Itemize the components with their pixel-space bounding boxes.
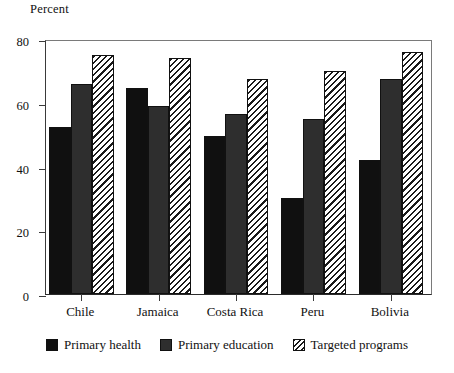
hatched-swatch bbox=[293, 339, 305, 351]
bar-group bbox=[281, 41, 346, 294]
legend-item-label: Primary health bbox=[64, 337, 141, 353]
solid-black-swatch bbox=[46, 339, 58, 351]
solid-gray-swatch bbox=[160, 339, 172, 351]
x-axis-category-label: Peru bbox=[301, 304, 325, 320]
bar bbox=[303, 119, 325, 294]
bar bbox=[324, 71, 346, 294]
bar bbox=[359, 160, 381, 294]
bar-group bbox=[126, 41, 191, 294]
bar-chart-figure: Percent 020406080 ChileJamaicaCosta Rica… bbox=[0, 0, 454, 373]
x-axis-tick bbox=[313, 294, 314, 301]
y-axis-tick-label: 40 bbox=[17, 162, 30, 177]
bar bbox=[148, 106, 170, 294]
plot-area: 020406080 bbox=[45, 40, 432, 295]
y-axis-tick: 80 bbox=[39, 41, 46, 42]
y-axis-tick: 60 bbox=[39, 105, 46, 106]
bar-group bbox=[359, 41, 424, 294]
x-axis-tick bbox=[159, 294, 160, 301]
bar bbox=[126, 88, 148, 294]
x-axis-category-label: Bolivia bbox=[371, 304, 409, 320]
bar-group bbox=[49, 41, 114, 294]
bar-group bbox=[204, 41, 269, 294]
x-axis-tick bbox=[236, 294, 237, 301]
legend-item[interactable]: Primary health bbox=[46, 337, 141, 353]
y-axis-tick: 0 bbox=[39, 296, 46, 297]
bar bbox=[92, 55, 114, 294]
y-axis-title: Percent bbox=[30, 2, 69, 17]
chart-legend: Primary healthPrimary educationTargeted … bbox=[0, 337, 454, 353]
legend-item[interactable]: Primary education bbox=[160, 337, 274, 353]
x-axis-tick bbox=[81, 294, 82, 301]
bar bbox=[225, 114, 247, 294]
bar bbox=[204, 136, 226, 294]
y-axis-tick-label: 20 bbox=[17, 226, 30, 241]
y-axis-tick-label: 0 bbox=[23, 290, 29, 305]
x-axis-category-label: Costa Rica bbox=[207, 304, 264, 320]
y-axis-tick: 20 bbox=[39, 232, 46, 233]
y-axis-tick-label: 80 bbox=[17, 35, 30, 50]
y-axis-tick: 40 bbox=[39, 169, 46, 170]
bar bbox=[169, 58, 191, 294]
bar bbox=[71, 84, 93, 294]
bar bbox=[247, 79, 269, 294]
x-axis-tick bbox=[391, 294, 392, 301]
bar bbox=[402, 52, 424, 294]
bar bbox=[49, 127, 71, 294]
x-axis-category-label: Jamaica bbox=[137, 304, 179, 320]
bar bbox=[380, 79, 402, 294]
legend-item-label: Targeted programs bbox=[311, 337, 408, 353]
bar bbox=[281, 198, 303, 294]
x-axis-category-label: Chile bbox=[66, 304, 94, 320]
legend-item-label: Primary education bbox=[178, 337, 274, 353]
legend-item[interactable]: Targeted programs bbox=[293, 337, 408, 353]
y-axis-tick-label: 60 bbox=[17, 98, 30, 113]
